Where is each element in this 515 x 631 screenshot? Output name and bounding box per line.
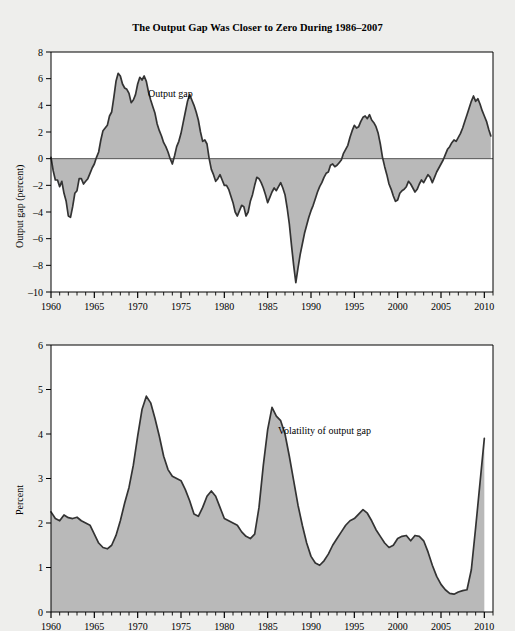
x-tick-label: 1985 [258,301,278,312]
x-tick-label: 2005 [431,621,451,631]
chart-panel-volatility: 0123456196019651970197519801985199019952… [0,340,515,631]
y-tick-label: –6 [32,233,43,244]
y-tick-label: 0 [38,607,43,618]
output-gap-plot: –10–8–6–4–202468196019651970197519801985… [0,44,515,319]
series-annotation: Volatility of output gap [278,425,371,436]
x-tick-label: 2010 [474,301,494,312]
y-tick-label: 2 [38,127,43,138]
y-tick-label: –10 [27,287,43,298]
x-tick-label: 1995 [344,621,364,631]
y-tick-label: 3 [38,473,43,484]
y-tick-label: –8 [32,260,43,271]
x-tick-label: 1985 [258,621,278,631]
x-tick-label: 1970 [128,301,148,312]
x-tick-label: 1965 [84,301,104,312]
y-axis-title-bottom: Percent [14,485,25,515]
y-tick-label: 4 [38,100,43,111]
y-tick-label: –4 [32,207,43,218]
x-tick-label: 2010 [474,621,494,631]
x-tick-label: 1960 [41,301,61,312]
y-tick-label: 4 [38,429,43,440]
x-tick-label: 1990 [301,621,321,631]
x-tick-label: 1975 [171,621,191,631]
x-tick-label: 2000 [388,301,408,312]
volatility-plot: 0123456196019651970197519801985199019952… [0,340,515,631]
series-annotation: Output gap [148,88,193,99]
x-tick-label: 1970 [128,621,148,631]
figure-container: The Output Gap Was Closer to Zero During… [0,0,515,631]
y-tick-label: 2 [38,518,43,529]
y-axis-title-top: Output gap (percent) [14,165,25,248]
y-tick-label: 6 [38,340,43,351]
x-tick-label: 1975 [171,301,191,312]
y-tick-label: –2 [32,180,43,191]
y-tick-label: 8 [38,47,43,58]
x-tick-label: 1995 [344,301,364,312]
chart-panel-output-gap: –10–8–6–4–202468196019651970197519801985… [0,44,515,319]
x-tick-label: 1980 [214,301,234,312]
x-tick-label: 1990 [301,301,321,312]
y-tick-label: 5 [38,384,43,395]
x-tick-label: 2000 [388,621,408,631]
x-tick-label: 1960 [41,621,61,631]
y-tick-label: 0 [38,153,43,164]
figure-title: The Output Gap Was Closer to Zero During… [0,22,515,33]
x-tick-label: 1965 [84,621,104,631]
y-tick-label: 1 [38,562,43,573]
x-tick-label: 2005 [431,301,451,312]
x-tick-label: 1980 [214,621,234,631]
y-tick-label: 6 [38,73,43,84]
